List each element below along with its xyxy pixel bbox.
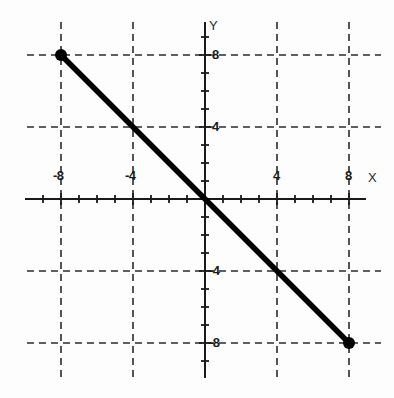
y-tick-label-8: 8 bbox=[212, 47, 219, 62]
y-axis-label: Y bbox=[209, 18, 218, 33]
x-tick-label-4: 4 bbox=[273, 168, 280, 183]
y-tick-label-4: 4 bbox=[212, 119, 219, 134]
y-tick-label-neg8: -8 bbox=[209, 335, 220, 350]
x-tick-label-8: 8 bbox=[345, 168, 352, 183]
x-axis-label: X bbox=[368, 170, 377, 185]
graph-canvas: -8 -4 4 8 8 4 -4 -8 Y X bbox=[0, 0, 394, 398]
x-tick-label-neg4: -4 bbox=[125, 168, 136, 183]
coordinate-plane-svg bbox=[0, 0, 394, 398]
x-tick-label-neg8: -8 bbox=[53, 168, 64, 183]
endpoint-dot-end bbox=[343, 337, 355, 349]
y-tick-label-neg4: -4 bbox=[209, 263, 220, 278]
endpoint-dot-start bbox=[55, 49, 67, 61]
